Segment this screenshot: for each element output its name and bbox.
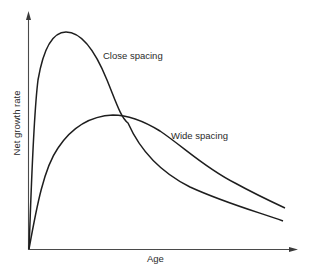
x-axis-label: Age — [147, 253, 164, 264]
x-axis-arrow-icon — [289, 247, 298, 252]
y-axis-arrow-icon — [26, 11, 31, 20]
wide-spacing-curve — [29, 115, 285, 249]
y-axis-label: Net growth rate — [11, 91, 22, 156]
growth-rate-chart: Close spacing Wide spacing Age Net growt… — [0, 0, 313, 271]
wide-spacing-label: Wide spacing — [171, 130, 228, 141]
close-spacing-label: Close spacing — [103, 50, 163, 61]
close-spacing-curve — [29, 32, 283, 249]
